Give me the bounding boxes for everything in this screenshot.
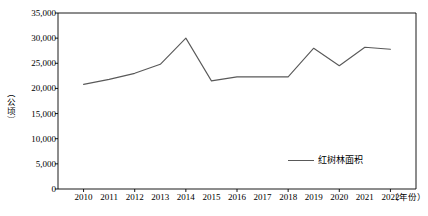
x-axis-tick-label: 2020	[330, 192, 348, 203]
x-axis-tick-label: 2014	[177, 192, 195, 203]
plot-area	[0, 0, 428, 216]
line-chart: （公顷） 05,00010,00015,00020,00025,00030,00…	[0, 0, 428, 216]
x-axis-tick-label: 2012	[126, 192, 144, 203]
series-line-mangrove-area	[84, 38, 391, 84]
x-axis-tick-label: 2015	[202, 192, 220, 203]
x-axis-tick-label: 2021	[356, 192, 374, 203]
x-axis-tick-label: 2017	[254, 192, 272, 203]
x-axis-tick-label: 2018	[279, 192, 297, 203]
legend-label-mangrove-area: 红树林面积	[318, 155, 363, 165]
chart-legend: 红树林面积	[288, 155, 363, 165]
legend-line-swatch	[288, 160, 314, 161]
x-axis-tick-label: 2013	[151, 192, 169, 203]
x-axis-tick-labels: 2010201120122013201420152016201720182019…	[0, 192, 428, 208]
x-axis-tick-label: 2019	[305, 192, 323, 203]
x-axis-tick-label: 2011	[100, 192, 118, 203]
x-axis-title: （年份）	[390, 192, 426, 203]
x-axis-tick-label: 2010	[75, 192, 93, 203]
x-axis-tick-label: 2016	[228, 192, 246, 203]
